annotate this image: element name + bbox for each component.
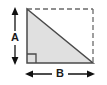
height-arrowhead-top <box>12 7 19 15</box>
right-triangle-shape <box>27 9 93 63</box>
width-arrowhead-left <box>25 71 33 78</box>
right-triangle-diagram: A B <box>0 0 107 85</box>
width-arrowhead-right <box>87 71 95 78</box>
height-dimension-label: A <box>11 31 19 43</box>
height-arrowhead-bottom <box>12 57 19 65</box>
figure-container: A B <box>0 0 107 85</box>
width-dimension-label: B <box>56 67 64 79</box>
